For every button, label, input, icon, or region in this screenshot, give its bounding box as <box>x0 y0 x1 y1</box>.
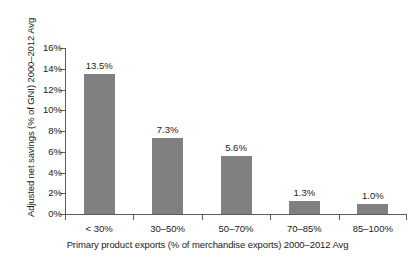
bar: 1.3% <box>289 201 320 214</box>
x-axis-category-label: < 30% <box>86 222 113 235</box>
y-axis-tick-label: 0% <box>48 207 62 220</box>
x-axis-tick-mark <box>270 215 271 220</box>
y-axis-tick-label: 10% <box>43 103 62 116</box>
bar-value-label: 1.3% <box>294 187 316 199</box>
bar: 13.5% <box>84 74 115 214</box>
bar-value-label: 13.5% <box>86 60 113 72</box>
bar-value-label: 1.0% <box>362 190 384 202</box>
bar-value-label: 7.3% <box>157 124 179 136</box>
bar: 7.3% <box>152 138 183 214</box>
y-axis-tick-label: 16% <box>43 41 62 54</box>
x-axis-tick-mark <box>65 215 66 220</box>
x-axis-category-label: 70–85% <box>287 222 322 235</box>
x-axis-tick-mark <box>339 215 340 220</box>
bar: 5.6% <box>221 156 252 214</box>
x-axis-tick-mark <box>406 215 407 220</box>
y-axis-tick-label: 2% <box>48 186 62 199</box>
bar-chart: Adjusted net savings (% of GNI) 2000–201… <box>0 0 415 266</box>
y-axis-tick-label: 14% <box>43 62 62 75</box>
x-axis-category-label: 30–50% <box>150 222 185 235</box>
y-axis-line <box>65 48 66 214</box>
bar-value-label: 5.6% <box>225 142 247 154</box>
x-axis-tick-mark <box>133 215 134 220</box>
bar: 1.0% <box>357 204 388 214</box>
y-axis-tick-label: 4% <box>48 166 62 179</box>
x-axis-line <box>65 214 407 215</box>
x-axis-title: Primary product exports (% of merchandis… <box>0 238 415 251</box>
y-axis-tick-label: 12% <box>43 83 62 96</box>
y-axis-tick-label: 8% <box>48 124 62 137</box>
y-axis-title: Adjusted net savings (% of GNI) 2000–201… <box>25 12 36 224</box>
plot-area: 0%2%4%6%8%10%12%14%16% 13.5%7.3%5.6%1.3%… <box>65 48 407 214</box>
x-axis-category-label: 50–70% <box>219 222 254 235</box>
x-axis-tick-mark <box>202 215 203 220</box>
y-axis-tick-label: 6% <box>48 145 62 158</box>
x-axis-category-label: 85–100% <box>353 222 393 235</box>
